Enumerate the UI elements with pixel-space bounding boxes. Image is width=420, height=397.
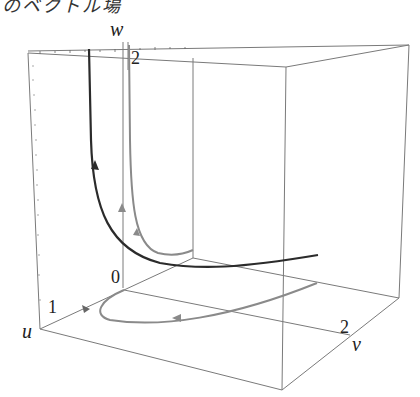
w-tick-label: 2 [131,48,140,68]
u-axis-label: u [22,320,32,342]
phase-space-3d-plot: w 2 0 1 u 2 v [0,0,420,397]
gray-trajectory-upper [129,45,193,255]
u-tick-label: 1 [48,297,57,317]
gray-trajectory-floor [100,283,317,323]
origin-label: 0 [111,267,120,287]
v-tick-label: 2 [340,317,349,337]
w-axis-label: w [110,18,124,40]
arrow-icon [118,203,126,212]
v-axis-label: v [352,333,361,355]
